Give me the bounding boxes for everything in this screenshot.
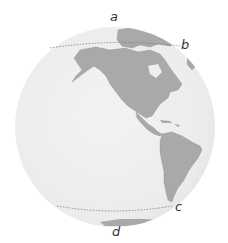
label-c: c [175, 200, 182, 213]
label-b: b [181, 38, 189, 51]
globe-diagram: a b c d [0, 0, 228, 243]
globe-svg [0, 0, 228, 243]
label-d: d [112, 225, 120, 238]
label-a: a [110, 10, 118, 23]
arctic-islands [117, 28, 176, 48]
